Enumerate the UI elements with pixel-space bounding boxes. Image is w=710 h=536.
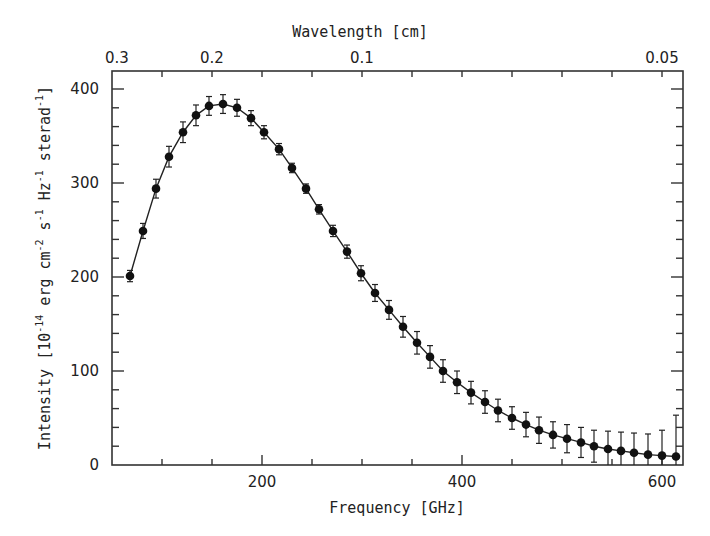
data-point xyxy=(413,332,422,355)
marker-dot xyxy=(577,438,586,447)
x-axis-title: Frequency [GHz] xyxy=(329,499,464,517)
marker-dot xyxy=(453,378,462,387)
marker-dot xyxy=(260,128,269,137)
data-point xyxy=(508,407,517,430)
marker-dot xyxy=(247,114,256,123)
data-point xyxy=(672,415,681,465)
chart-canvas: 2004006000.30.20.10.050100200300400 Freq… xyxy=(0,0,710,536)
marker-dot xyxy=(522,420,531,429)
marker-dot xyxy=(563,434,572,443)
data-point xyxy=(644,434,653,465)
marker-dot xyxy=(590,442,599,451)
marker-dot xyxy=(179,128,188,137)
data-point xyxy=(205,97,214,116)
axis-ticks xyxy=(112,71,683,465)
data-point xyxy=(481,391,490,414)
marker-dot xyxy=(302,184,311,193)
series-line xyxy=(130,104,676,457)
data-point xyxy=(590,430,599,462)
plot-border xyxy=(112,71,683,465)
marker-dot xyxy=(399,323,408,332)
y-tick-label: 300 xyxy=(70,174,99,192)
data-point xyxy=(247,111,256,126)
marker-dot xyxy=(630,448,639,457)
data-point xyxy=(315,205,324,214)
marker-dot xyxy=(494,406,503,415)
marker-dot xyxy=(385,306,394,315)
data-point xyxy=(260,126,269,139)
marker-dot xyxy=(658,451,667,460)
marker-dot xyxy=(126,272,135,281)
top-axis-title: Wavelength [cm] xyxy=(292,23,427,41)
marker-dot xyxy=(219,100,228,109)
marker-dot xyxy=(439,367,448,376)
top-tick-label: 0.2 xyxy=(200,49,224,67)
y-tick-label: 0 xyxy=(89,456,99,474)
marker-dot xyxy=(233,104,242,113)
tick-labels: 2004006000.30.20.10.050100200300400 xyxy=(70,49,678,491)
y-tick-label: 200 xyxy=(70,268,99,286)
marker-dot xyxy=(672,452,681,461)
data-point xyxy=(630,433,639,465)
data-point xyxy=(453,371,462,394)
data-point xyxy=(192,105,201,126)
data-point xyxy=(522,412,531,436)
marker-dot xyxy=(508,414,517,423)
marker-dot xyxy=(165,152,174,161)
data-series xyxy=(126,95,681,465)
marker-dot xyxy=(288,164,297,173)
data-point xyxy=(535,417,544,443)
marker-dot xyxy=(315,205,324,214)
marker-dot xyxy=(426,353,435,362)
data-point xyxy=(385,301,394,320)
data-point xyxy=(126,270,135,281)
data-point xyxy=(371,285,380,302)
data-point xyxy=(549,422,558,448)
data-point xyxy=(219,95,228,114)
marker-dot xyxy=(535,426,544,435)
marker-dot xyxy=(139,227,148,236)
data-point xyxy=(467,381,476,404)
data-point xyxy=(604,431,613,465)
marker-dot xyxy=(413,339,422,348)
marker-dot xyxy=(192,111,201,120)
marker-dot xyxy=(644,450,653,459)
data-point xyxy=(179,122,188,143)
data-point xyxy=(399,316,408,337)
y-tick-label: 400 xyxy=(70,80,99,98)
plot-frame xyxy=(112,71,683,465)
x-tick-label: 200 xyxy=(248,473,277,491)
data-point xyxy=(426,346,435,369)
data-point xyxy=(577,427,586,457)
y-tick-label: 100 xyxy=(70,362,99,380)
marker-dot xyxy=(357,269,366,278)
marker-dot xyxy=(329,227,338,236)
data-point xyxy=(563,425,572,453)
data-point xyxy=(658,430,667,465)
data-point xyxy=(439,360,448,383)
y-axis-title: Intensity [10-14​ erg cm-2​ s-1​ Hz-1​ s… xyxy=(34,86,54,450)
top-tick-label: 0.1 xyxy=(350,49,374,67)
marker-dot xyxy=(617,447,626,456)
x-tick-label: 600 xyxy=(648,473,677,491)
marker-dot xyxy=(604,445,613,454)
marker-dot xyxy=(205,102,214,111)
marker-dot xyxy=(275,145,284,154)
marker-dot xyxy=(467,388,476,397)
top-tick-label: 0.05 xyxy=(645,49,678,67)
x-tick-label: 400 xyxy=(448,473,477,491)
marker-dot xyxy=(481,398,490,407)
data-point xyxy=(233,99,242,116)
marker-dot xyxy=(343,247,352,256)
data-point xyxy=(617,432,626,465)
marker-dot xyxy=(152,184,161,193)
data-point xyxy=(494,399,503,422)
marker-dot xyxy=(549,431,558,440)
data-point xyxy=(139,223,148,238)
marker-dot xyxy=(371,289,380,298)
top-tick-label: 0.3 xyxy=(105,49,129,67)
